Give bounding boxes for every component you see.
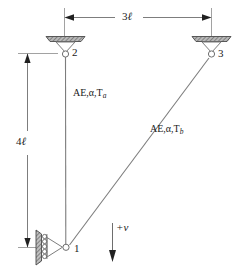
horizontal-dimension-group xyxy=(65,8,212,36)
sign-convention-arrow-group xyxy=(109,223,116,262)
dim-arrow-right-icon xyxy=(202,14,212,20)
node-3-ground-plate xyxy=(192,37,231,42)
sign-convention-label: +v xyxy=(116,222,128,233)
node-1-label: 1 xyxy=(74,243,80,254)
dim-arrow-up-icon xyxy=(24,54,30,64)
vertical-dimension-label: 4ℓ xyxy=(16,136,26,147)
members-group xyxy=(66,57,210,245)
node-3-label: 3 xyxy=(218,48,224,59)
node-1-wall-plate xyxy=(36,230,42,265)
dim-arrow-left-icon xyxy=(65,14,75,20)
node-1-pin-circle-icon xyxy=(63,244,69,250)
member-a-label: AE,α,Ta xyxy=(73,88,106,99)
horizontal-dimension-label: 3ℓ xyxy=(122,11,132,22)
node-1-roller-triangle-icon xyxy=(47,238,63,258)
member-b-label-subscript: b xyxy=(180,127,184,136)
node-2-ground-plate xyxy=(46,37,85,42)
member-a-label-prefix: AE,α,T xyxy=(73,87,103,98)
node-1-support-group xyxy=(36,230,69,265)
sign-convention-arrow-head-icon xyxy=(109,250,116,262)
vertical-dimension-group xyxy=(18,54,58,248)
member-a-label-subscript: a xyxy=(103,91,107,100)
node-3-pin-circle-icon xyxy=(208,51,214,57)
node-1-roller-icon xyxy=(43,244,47,248)
node-1-roller-icon xyxy=(43,254,47,258)
horizontal-dimension-unit: ℓ xyxy=(128,10,133,22)
node-2-pin-circle-icon xyxy=(62,51,68,57)
node-2-support-group xyxy=(46,37,85,58)
node-1-roller-icon xyxy=(43,249,47,253)
node-2-label: 2 xyxy=(72,47,78,58)
dim-arrow-down-icon xyxy=(24,238,30,248)
vertical-dimension-unit: ℓ xyxy=(22,135,27,147)
node-3-support-group xyxy=(192,37,231,58)
node-1-roller-icon xyxy=(43,239,47,243)
member-b-label: AE,α,Tb xyxy=(150,124,183,135)
truss-figure: 3ℓ 4ℓ 2 3 1 AE,α,Ta AE,α,Tb +v xyxy=(0,0,237,269)
node-1-roller-icon xyxy=(43,234,47,238)
member-b-label-prefix: AE,α,T xyxy=(150,123,180,134)
